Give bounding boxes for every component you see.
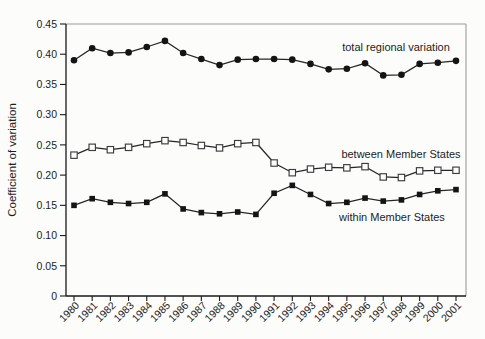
data-point-within-member-states xyxy=(144,200,150,206)
data-point-total-regional-variation xyxy=(143,44,150,51)
data-point-within-member-states xyxy=(89,196,95,202)
data-point-within-member-states xyxy=(108,200,114,206)
y-tick-label: 0.25 xyxy=(37,139,58,151)
y-axis-title: Coefficient of variation xyxy=(6,103,18,217)
chart-canvas: Coefficient of variation total regional … xyxy=(0,0,485,339)
data-point-within-member-states xyxy=(71,203,77,209)
y-tick-label: 0.45 xyxy=(37,18,58,30)
y-tick-label: 0.15 xyxy=(37,199,58,211)
series-label-within-member-states: within Member States xyxy=(338,211,445,223)
data-point-within-member-states xyxy=(399,197,405,203)
data-point-between-member-states xyxy=(162,137,168,143)
y-tick-label: 0.05 xyxy=(37,260,58,272)
data-point-total-regional-variation xyxy=(107,50,114,57)
x-tick-label: 2001 xyxy=(438,299,463,324)
data-point-within-member-states xyxy=(199,210,205,216)
data-point-between-member-states xyxy=(453,167,459,173)
y-tick-label: 0.20 xyxy=(37,169,58,181)
series-label-total-regional-variation: total regional variation xyxy=(342,41,450,53)
data-point-within-member-states xyxy=(308,192,314,198)
data-point-within-member-states xyxy=(344,200,350,206)
data-point-between-member-states xyxy=(71,152,77,158)
data-point-between-member-states xyxy=(362,163,368,169)
data-point-total-regional-variation xyxy=(198,56,205,63)
data-point-total-regional-variation xyxy=(162,38,169,45)
y-tick-label: 0.40 xyxy=(37,48,58,60)
data-point-between-member-states xyxy=(380,174,386,180)
data-point-total-regional-variation xyxy=(89,45,96,52)
data-point-within-member-states xyxy=(235,209,241,215)
data-point-between-member-states xyxy=(271,160,277,166)
data-point-between-member-states xyxy=(416,168,422,174)
data-point-between-member-states xyxy=(180,139,186,145)
data-point-between-member-states xyxy=(89,144,95,150)
data-point-total-regional-variation xyxy=(325,66,332,73)
data-point-within-member-states xyxy=(162,191,168,197)
series-label-between-member-states: between Member States xyxy=(341,148,461,160)
data-point-within-member-states xyxy=(126,201,132,207)
data-point-between-member-states xyxy=(307,166,313,172)
data-point-between-member-states xyxy=(216,145,222,151)
data-point-total-regional-variation xyxy=(216,62,223,69)
data-point-total-regional-variation xyxy=(362,60,369,67)
data-point-total-regional-variation xyxy=(453,58,460,65)
data-point-within-member-states xyxy=(289,183,295,189)
y-tick-label: 0.10 xyxy=(37,229,58,241)
data-point-between-member-states xyxy=(289,169,295,175)
data-point-total-regional-variation xyxy=(234,56,241,63)
data-point-between-member-states xyxy=(344,165,350,171)
data-point-within-member-states xyxy=(326,201,332,207)
data-point-within-member-states xyxy=(253,212,259,218)
data-point-within-member-states xyxy=(417,192,423,198)
y-tick-label: 0.30 xyxy=(37,108,58,120)
y-tick-label: 0 xyxy=(51,290,57,302)
data-point-total-regional-variation xyxy=(344,65,351,72)
data-point-within-member-states xyxy=(271,190,277,196)
y-tick-label: 0.35 xyxy=(37,78,58,90)
data-point-between-member-states xyxy=(253,139,259,145)
data-point-total-regional-variation xyxy=(253,56,260,63)
data-point-within-member-states xyxy=(362,195,368,201)
data-point-between-member-states xyxy=(198,142,204,148)
line-chart-figure: Coefficient of variation total regional … xyxy=(0,0,485,339)
data-point-total-regional-variation xyxy=(435,59,442,66)
data-point-total-regional-variation xyxy=(398,71,405,78)
data-point-total-regional-variation xyxy=(180,50,187,57)
data-point-total-regional-variation xyxy=(125,49,132,56)
data-point-between-member-states xyxy=(125,144,131,150)
data-point-total-regional-variation xyxy=(271,56,278,63)
data-point-within-member-states xyxy=(453,187,459,193)
data-point-between-member-states xyxy=(144,140,150,146)
data-point-within-member-states xyxy=(180,206,186,212)
data-point-total-regional-variation xyxy=(416,61,423,68)
data-point-between-member-states xyxy=(107,147,113,153)
data-point-between-member-states xyxy=(325,164,331,170)
data-point-between-member-states xyxy=(235,140,241,146)
data-point-within-member-states xyxy=(435,188,441,194)
data-point-total-regional-variation xyxy=(380,72,387,79)
data-point-between-member-states xyxy=(398,174,404,180)
data-point-between-member-states xyxy=(435,167,441,173)
data-point-within-member-states xyxy=(217,211,223,217)
data-point-within-member-states xyxy=(380,198,386,204)
data-point-total-regional-variation xyxy=(71,57,78,64)
data-point-total-regional-variation xyxy=(289,56,296,63)
data-point-total-regional-variation xyxy=(307,61,314,68)
